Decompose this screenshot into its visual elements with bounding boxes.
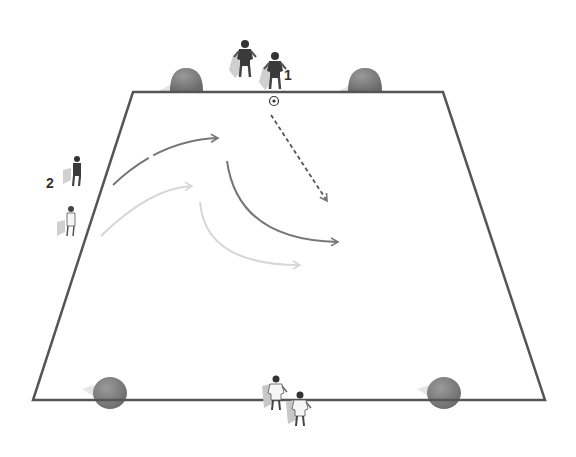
player-light-2 (262, 376, 287, 411)
group-label-2: 2 (46, 175, 54, 191)
drill-diagram: 1 2 (0, 0, 576, 457)
goal-bottom-right (417, 377, 461, 409)
player-light-1 (57, 206, 75, 236)
ball-icon (270, 97, 279, 106)
goal-bottom-left (82, 377, 127, 409)
goal-top-left (158, 68, 203, 91)
run-arrow-dark (227, 161, 338, 242)
field-boundary (33, 92, 545, 400)
group-label-1: 1 (284, 67, 292, 83)
goal-top-right (339, 68, 382, 91)
drill-canvas: 1 2 (0, 0, 576, 457)
player-dark-3 (63, 156, 81, 186)
player-dark-2 (259, 52, 286, 90)
player-light-3 (286, 392, 311, 427)
player-dark-1 (229, 40, 256, 78)
pass-arrow-dark (113, 138, 218, 185)
ball-path-arrow (271, 115, 327, 201)
pass-arrow-light (101, 186, 192, 236)
